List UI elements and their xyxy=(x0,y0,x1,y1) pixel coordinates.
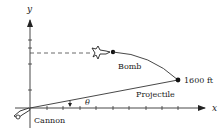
bomb-label: Bomb xyxy=(118,62,141,71)
airplane-icon xyxy=(92,46,110,59)
impact-point xyxy=(176,78,181,83)
distance-label: 1600 ft xyxy=(184,76,214,85)
cannon-icon xyxy=(14,108,30,119)
angle-indicator xyxy=(68,101,72,108)
y-axis-label: y xyxy=(26,4,33,14)
angle-label: θ xyxy=(85,98,90,107)
projectile-label: Projectile xyxy=(136,90,175,99)
projectile-diagram: y x Bomb Projectile 1600 ft θ Cannon xyxy=(0,0,224,131)
cannon-label: Cannon xyxy=(34,116,65,125)
x-axis-label: x xyxy=(212,103,217,113)
